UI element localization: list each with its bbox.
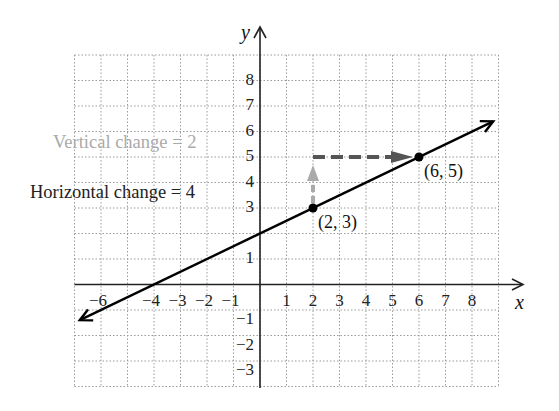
x-tick-label: −2 bbox=[195, 291, 213, 310]
x-axis-label: x bbox=[515, 291, 524, 314]
x-tick-label: −4 bbox=[142, 291, 161, 310]
y-tick-label: 5 bbox=[246, 146, 255, 165]
y-tick-label: 7 bbox=[246, 95, 255, 114]
horizontal-change-label: Horizontal change = 4 bbox=[30, 182, 195, 203]
x-tick-label: 2 bbox=[309, 291, 318, 310]
y-tick-label: −2 bbox=[236, 335, 254, 354]
data-point bbox=[309, 204, 318, 213]
x-tick-label: 6 bbox=[415, 291, 424, 310]
y-tick-label: 4 bbox=[246, 172, 255, 191]
point-label-2-3: (2, 3) bbox=[318, 212, 357, 233]
x-tick-label: −3 bbox=[168, 291, 186, 310]
x-tick-label: 3 bbox=[335, 291, 344, 310]
coordinate-plane: −6−4−3−2−112345678−3−2−11345678 bbox=[0, 0, 559, 411]
data-point bbox=[415, 153, 424, 162]
x-tick-label: 7 bbox=[441, 291, 450, 310]
y-tick-label: 8 bbox=[246, 70, 255, 89]
y-tick-label: 6 bbox=[246, 121, 255, 140]
point-label-6-5: (6, 5) bbox=[424, 161, 463, 182]
y-axis-label: y bbox=[241, 21, 250, 44]
x-tick-label: 8 bbox=[468, 291, 477, 310]
y-tick-label: −1 bbox=[236, 309, 254, 328]
y-tick-label: −3 bbox=[236, 360, 254, 379]
x-tick-label: 4 bbox=[362, 291, 371, 310]
x-tick-label: −6 bbox=[89, 291, 107, 310]
y-tick-label: 3 bbox=[246, 197, 255, 216]
change-arrows bbox=[307, 151, 413, 203]
x-tick-label: −1 bbox=[221, 291, 239, 310]
tick-labels: −6−4−3−2−112345678−3−2−11345678 bbox=[89, 70, 476, 380]
vertical-arrowhead-icon bbox=[307, 165, 319, 181]
y-tick-label: 1 bbox=[246, 248, 255, 267]
x-tick-label: 1 bbox=[282, 291, 291, 310]
vertical-change-label: Vertical change = 2 bbox=[53, 132, 196, 153]
x-tick-label: 5 bbox=[388, 291, 397, 310]
